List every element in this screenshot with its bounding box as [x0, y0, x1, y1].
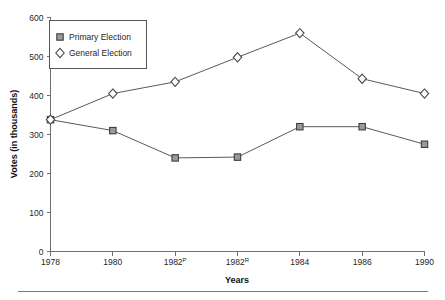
y-tick-label: 100: [29, 208, 43, 218]
legend-marker-square: [57, 34, 63, 40]
data-point-square: [421, 141, 427, 147]
y-axis-title: Votes (in thousands): [9, 90, 19, 178]
data-point-square: [234, 154, 240, 160]
y-tick-group: 0100200300400500600: [29, 13, 50, 257]
line-chart: 0100200300400500600 197819801982P1982R19…: [0, 0, 445, 300]
data-point-diamond: [420, 89, 428, 98]
y-tick-label: 500: [29, 52, 43, 62]
y-tick-label: 600: [29, 13, 43, 23]
data-point-square: [110, 127, 116, 133]
x-tick-label: 1984: [290, 257, 309, 267]
x-tick-group: 197819801982P1982R198419861990: [41, 252, 434, 267]
x-tick-label: 1978: [41, 257, 60, 267]
x-tick-label: 1980: [103, 257, 122, 267]
legend-label: General Election: [69, 48, 132, 58]
data-point-square: [297, 124, 303, 130]
chart-legend: Primary ElectionGeneral Election: [50, 21, 147, 69]
data-point-square: [172, 155, 178, 161]
x-tick-label: 1982P: [164, 257, 187, 267]
y-tick-label: 0: [39, 247, 44, 257]
series-line-square: [51, 120, 425, 158]
data-point-diamond: [358, 74, 366, 83]
x-tick-label: 1982R: [226, 257, 250, 267]
legend-label: Primary Election: [69, 32, 131, 42]
chart-container: 0100200300400500600 197819801982P1982R19…: [0, 0, 445, 300]
y-tick-label: 300: [29, 130, 43, 140]
data-point-diamond: [109, 89, 117, 98]
data-point-diamond: [296, 29, 304, 38]
data-point-diamond: [233, 53, 241, 62]
x-tick-label: 1986: [353, 257, 372, 267]
data-point-square: [359, 124, 365, 130]
legend-border: [50, 21, 147, 69]
x-axis-title: Years: [225, 275, 249, 285]
x-tick-label: 1990: [415, 257, 434, 267]
y-tick-label: 200: [29, 169, 43, 179]
y-tick-label: 400: [29, 91, 43, 101]
data-point-diamond: [171, 77, 179, 86]
